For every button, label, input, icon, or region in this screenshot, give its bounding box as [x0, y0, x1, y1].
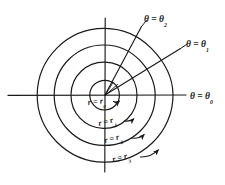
ray-theta2	[105, 27, 142, 96]
ray-theta1	[105, 49, 181, 96]
label-r1: r = r1	[97, 115, 118, 132]
label-r0: r = r0	[87, 96, 106, 111]
theta-labels: θ = θ0 θ = θ1 θ = θ2	[144, 14, 213, 105]
label-theta2: θ = θ2	[144, 14, 167, 28]
label-r3-sub: 3	[127, 158, 132, 165]
label-r0-base: r = r	[87, 96, 104, 107]
label-theta0: θ = θ0	[190, 91, 213, 105]
label-r0-sub: 0	[103, 103, 107, 109]
label-r2: r = r2	[103, 132, 124, 149]
radius-labels: r = r0 r = r1 r = r2 r = r3	[87, 96, 132, 168]
label-theta0-sub: 0	[210, 99, 213, 105]
label-theta1: θ = θ1	[186, 39, 209, 53]
label-r1-base: r = r	[97, 115, 115, 128]
arrow-to-r0-circle	[113, 101, 120, 102]
label-theta1-base: θ = θ	[186, 39, 206, 49]
constant-theta-rays	[105, 27, 181, 96]
label-theta0-base: θ = θ	[190, 91, 210, 101]
radius-callout-arrows	[113, 101, 159, 157]
fan-line-a	[105, 85, 117, 96]
polar-diagram-canvas: θ = θ0 θ = θ1 θ = θ2 r = r0 r = r1 r = r…	[0, 0, 225, 185]
polar-coordinate-figure: θ = θ0 θ = θ1 θ = θ2 r = r0 r = r1 r = r…	[0, 0, 225, 185]
label-r3-base: r = r	[111, 151, 129, 164]
axes-group	[8, 18, 186, 172]
label-r3: r = r3	[111, 151, 132, 168]
label-theta2-base: θ = θ	[144, 14, 164, 24]
label-theta2-sub: 2	[163, 22, 167, 28]
label-theta1-sub: 1	[206, 47, 209, 53]
